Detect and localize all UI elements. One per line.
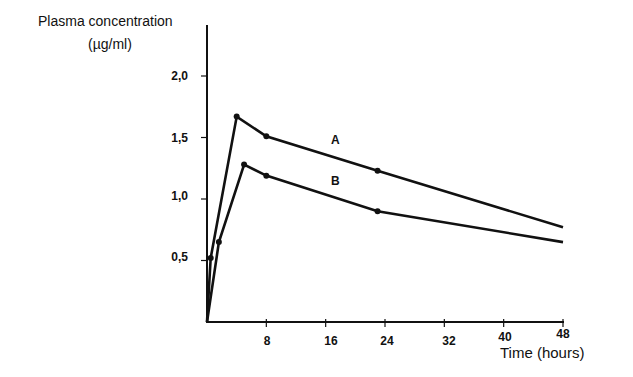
series-lines (207, 114, 563, 322)
plot-area (0, 0, 633, 377)
data-point-marker (263, 173, 269, 179)
series-line-a (207, 117, 563, 322)
data-point-marker (216, 239, 222, 245)
data-point-marker (208, 255, 214, 261)
series-line-b (207, 165, 563, 322)
data-point-marker (375, 208, 381, 214)
data-point-marker (241, 162, 247, 168)
data-point-marker (375, 168, 381, 174)
data-point-marker (234, 114, 240, 120)
data-point-marker (263, 133, 269, 139)
